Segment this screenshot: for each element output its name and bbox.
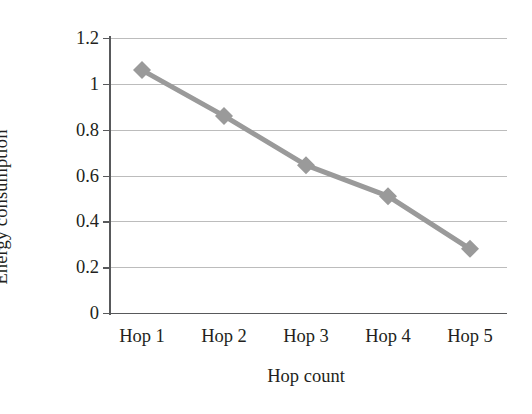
line-chart-figure: Energy consumption 1.2 1 0.8 0.6 0.4 0.2… [0, 0, 532, 414]
data-series-layer [0, 0, 532, 414]
x-tick-label-hop-4: Hop 4 [365, 326, 411, 347]
x-tick-label-hop-3: Hop 3 [283, 326, 329, 347]
x-axis-title: Hop count [96, 366, 516, 387]
x-tick-label-hop-2: Hop 2 [201, 326, 247, 347]
x-tick-label-hop-5: Hop 5 [447, 326, 493, 347]
series-markers [133, 61, 479, 258]
x-tick-label-hop-1: Hop 1 [119, 326, 165, 347]
